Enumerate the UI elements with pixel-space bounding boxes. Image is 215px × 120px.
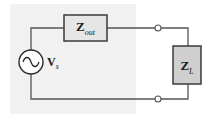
zl-label: ZL	[173, 58, 201, 76]
wire-bottom-right	[161, 84, 188, 99]
terminal-top-icon	[155, 25, 161, 31]
terminal-bottom-icon	[155, 96, 161, 102]
wire-top-left	[31, 28, 64, 50]
zout-label: Zout	[64, 19, 107, 37]
wire-bottom-left	[31, 74, 155, 99]
wire-top-right	[161, 28, 188, 46]
vs-label: Vs	[47, 55, 59, 71]
